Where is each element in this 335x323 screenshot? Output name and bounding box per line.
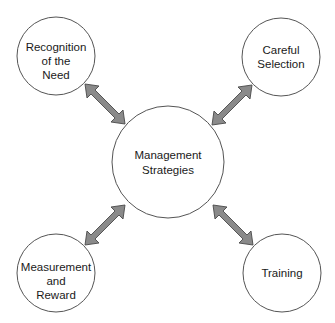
arrow-training-center — [213, 205, 253, 245]
recognition-label-line-3: Need — [42, 69, 70, 81]
arrow-recognition-center — [85, 84, 125, 124]
selection-label-line-2: Selection — [257, 58, 304, 70]
node-recognition-of-the-need: Recognition of the Need — [17, 17, 95, 95]
double-arrow-icon — [85, 84, 125, 124]
center-circle — [112, 106, 224, 218]
center-label-line-2: Strategies — [142, 164, 194, 176]
measurement-label-line-3: Reward — [36, 289, 76, 301]
node-training: Training — [243, 234, 321, 312]
training-label: Training — [261, 267, 302, 279]
arrow-selection-center — [212, 85, 252, 125]
recognition-label-line-1: Recognition — [26, 41, 87, 53]
selection-circle — [242, 18, 320, 96]
node-careful-selection: Careful Selection — [242, 18, 320, 96]
arrow-measurement-center — [85, 205, 125, 245]
double-arrow-icon — [212, 85, 252, 125]
measurement-label-line-1: Measurement — [21, 261, 92, 273]
node-measurement-and-reward: Measurement and Reward — [17, 234, 95, 312]
strategy-diagram: Management Strategies Recognition of the… — [0, 0, 335, 323]
center-label-line-1: Management — [134, 149, 202, 161]
measurement-label-line-2: and — [46, 275, 65, 287]
double-arrow-icon — [213, 205, 253, 245]
selection-label-line-1: Careful — [262, 44, 299, 56]
node-management-strategies: Management Strategies — [112, 106, 224, 218]
recognition-label-line-2: of the — [42, 55, 71, 67]
double-arrow-icon — [85, 205, 125, 245]
